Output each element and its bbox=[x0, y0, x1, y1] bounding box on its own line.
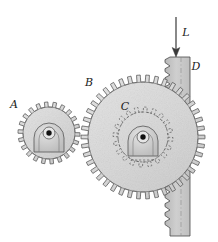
label-gear-a: A bbox=[9, 98, 18, 111]
gear-c-shaft bbox=[140, 134, 145, 139]
load-arrow-l bbox=[172, 17, 180, 57]
label-load-l: L bbox=[181, 26, 189, 39]
label-gear-c: C bbox=[121, 100, 130, 113]
label-rack-d: D bbox=[191, 60, 201, 73]
gear-a-shaft bbox=[46, 130, 51, 135]
gear-diagram-figure: A B C D L bbox=[0, 0, 218, 242]
gear-a bbox=[18, 102, 80, 164]
label-gear-b: B bbox=[84, 76, 93, 89]
gear-diagram-canvas: A B C D L bbox=[0, 0, 218, 242]
